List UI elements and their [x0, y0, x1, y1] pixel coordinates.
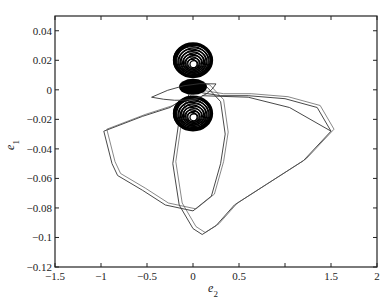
y-tick-label: −0.1	[32, 231, 52, 243]
transient-trajectory-echo	[107, 82, 334, 233]
excursion-branch	[202, 96, 331, 131]
y-tick-label: −0.02	[27, 113, 52, 125]
y-tick-label: 0.04	[33, 25, 53, 37]
x-tick-label: 0	[190, 270, 196, 282]
y-tick-label: −0.08	[27, 202, 53, 214]
x-tick-label: −1	[95, 270, 107, 282]
y-axis-label: e1	[3, 140, 21, 150]
transient-trajectory	[104, 84, 331, 235]
axes-frame	[55, 16, 377, 267]
x-axis-label: e2	[208, 281, 218, 299]
trajectory-lines	[104, 44, 334, 234]
attractor-junction	[179, 79, 207, 95]
y-tick-label: 0	[47, 84, 53, 96]
phase-portrait-chart: −1.5−1−0.500.51.52 0.040.020−0.02−0.04−0…	[0, 0, 391, 304]
x-tick-label: 1.5	[324, 270, 338, 282]
y-tick-label: −0.04	[27, 143, 53, 155]
y-tick-label: −0.12	[27, 261, 52, 273]
axes-box	[55, 16, 377, 267]
x-tick-label: 0.5	[232, 270, 246, 282]
x-tick-label: 2	[374, 270, 380, 282]
x-tick-label: −0.5	[137, 270, 157, 282]
y-tick-label: −0.06	[27, 172, 53, 184]
y-tick-label: 0.02	[33, 54, 52, 66]
